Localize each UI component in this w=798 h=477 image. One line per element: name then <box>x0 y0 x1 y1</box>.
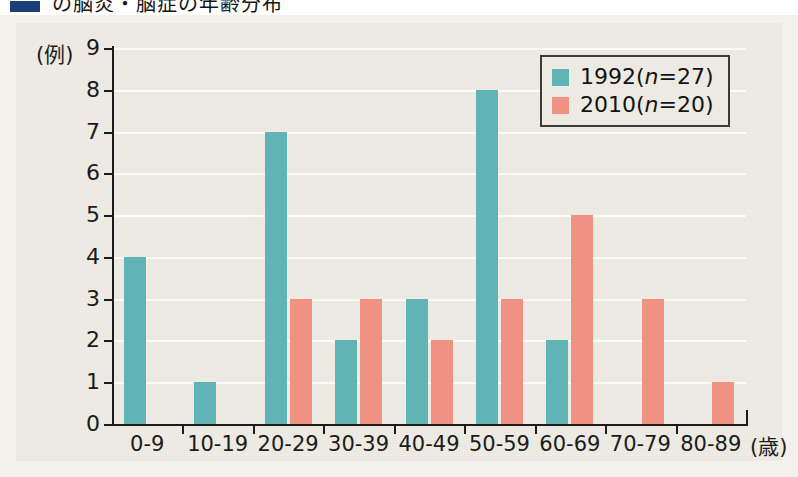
bar-1992-30-39 <box>335 340 357 424</box>
bar-2010-20-29 <box>290 299 312 424</box>
y-tick-0 <box>104 424 113 426</box>
bar-2010-60-69 <box>571 215 593 424</box>
legend-swatch-2010 <box>552 97 569 114</box>
y-tick-2 <box>104 340 113 342</box>
x-axis-line <box>112 424 748 426</box>
y-tick-7 <box>104 132 113 134</box>
gridline-7 <box>112 132 746 134</box>
y-tick-label-wrap-8: 8 <box>62 79 100 101</box>
gridline-5 <box>112 215 746 217</box>
y-tick-label-wrap-3: 3 <box>62 288 100 310</box>
y-tick-3 <box>104 299 113 301</box>
y-tick-label-wrap-0: 0 <box>62 413 100 435</box>
bar-2010-70-79 <box>642 299 664 424</box>
y-tick-5 <box>104 215 113 217</box>
bar-2010-30-39 <box>360 299 382 424</box>
bar-1992-50-59 <box>476 90 498 424</box>
figure-page: の脳炎・脳症の年齢分布 (例) (歳) 0123456789 0-910-192… <box>0 0 798 477</box>
y-tick-label-1: 1 <box>70 371 100 393</box>
y-tick-label-6: 6 <box>70 162 100 184</box>
y-tick-9 <box>104 48 113 50</box>
y-axis-line <box>112 46 114 426</box>
y-tick-label-3: 3 <box>70 288 100 310</box>
y-tick-label-wrap-7: 7 <box>62 121 100 143</box>
y-tick-label-2: 2 <box>70 329 100 351</box>
legend-swatch-1992 <box>552 69 569 86</box>
y-tick-label-wrap-6: 6 <box>62 162 100 184</box>
legend-label-1992: 1992(n=27) <box>580 66 714 88</box>
legend-year-2010: 2010 <box>580 92 636 117</box>
bar-2010-40-49 <box>431 340 453 424</box>
legend-n-2010: (n=20) <box>636 92 714 117</box>
chart-legend: 1992(n=27) 2010(n=20) <box>540 55 730 127</box>
y-tick-label-wrap-1: 1 <box>62 371 100 393</box>
bar-1992-0-9 <box>124 257 146 424</box>
caption-marker-icon <box>10 1 40 12</box>
gridline-6 <box>112 173 746 175</box>
y-tick-label-wrap-9: 9 <box>62 37 100 59</box>
y-tick-8 <box>104 90 113 92</box>
y-tick-label-wrap-5: 5 <box>62 204 100 226</box>
bar-1992-60-69 <box>546 340 568 424</box>
bar-2010-50-59 <box>501 299 523 424</box>
gridline-9 <box>112 48 746 50</box>
y-tick-label-wrap-4: 4 <box>62 246 100 268</box>
bar-1992-20-29 <box>265 132 287 424</box>
y-tick-label-wrap-2: 2 <box>62 329 100 351</box>
legend-n-1992: (n=27) <box>636 64 714 89</box>
x-tick-label-80-89: 80-89 <box>666 432 756 456</box>
legend-item-2010: 2010(n=20) <box>552 91 714 119</box>
legend-label-2010: 2010(n=20) <box>580 94 714 116</box>
bar-1992-10-19 <box>194 382 216 424</box>
y-tick-1 <box>104 382 113 384</box>
y-tick-label-5: 5 <box>70 204 100 226</box>
legend-year-1992: 1992 <box>580 64 636 89</box>
y-tick-6 <box>104 173 113 175</box>
y-tick-label-0: 0 <box>70 413 100 435</box>
y-tick-label-4: 4 <box>70 246 100 268</box>
x-axis-endcap <box>746 410 748 426</box>
caption-strip: の脳炎・脳症の年齢分布 <box>0 0 798 15</box>
legend-item-1992: 1992(n=27) <box>552 63 714 91</box>
bar-2010-80-89 <box>712 382 734 424</box>
caption-title: の脳炎・脳症の年齢分布 <box>52 0 283 15</box>
y-tick-4 <box>104 257 113 259</box>
bar-1992-40-49 <box>406 299 428 424</box>
y-tick-label-7: 7 <box>70 121 100 143</box>
gridline-4 <box>112 257 746 259</box>
y-tick-label-9: 9 <box>70 37 100 59</box>
y-tick-label-8: 8 <box>70 79 100 101</box>
